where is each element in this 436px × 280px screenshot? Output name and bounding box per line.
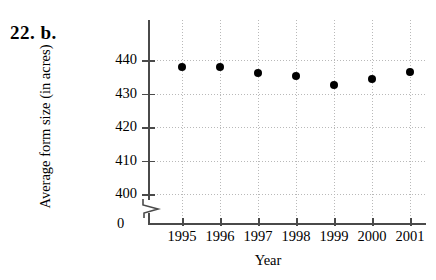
gridline-horizontal [148, 161, 426, 162]
y-axis-tick-label: 410 [115, 152, 137, 169]
x-axis-title-wrap: Year [0, 252, 436, 269]
x-axis-tick [372, 218, 374, 226]
y-axis-line [148, 20, 150, 200]
data-point [178, 63, 186, 71]
x-axis-tick [334, 218, 336, 226]
y-axis-title: Average form size (in acres) [37, 22, 54, 232]
axis-break-icon [141, 198, 163, 218]
x-axis-tick [296, 218, 298, 226]
gridline-vertical [372, 20, 373, 224]
y-axis-tick-label: 430 [115, 85, 137, 102]
y-axis-tick: 410 [142, 161, 155, 163]
y-axis-zero-label: 0 [117, 215, 124, 232]
y-axis-tick-label: 440 [115, 51, 137, 68]
gridline-horizontal [148, 127, 426, 128]
x-axis-line [148, 223, 426, 225]
x-axis-tick-label: 1995 [168, 228, 197, 245]
gridline-horizontal [148, 60, 426, 61]
figure-container: 22. b. Average form size (in acres) 4004… [0, 0, 436, 280]
gridline-vertical [296, 20, 297, 224]
x-axis-tick-label: 1996 [206, 228, 235, 245]
y-axis-tick: 420 [142, 127, 155, 129]
x-axis-tick-label: 2001 [396, 228, 425, 245]
x-axis-tick-label: 2000 [358, 228, 387, 245]
gridlines [148, 20, 426, 224]
y-axis-tick: 440 [142, 60, 155, 62]
gridline-vertical [182, 20, 183, 224]
y-axis-tick: 430 [142, 94, 155, 96]
x-axis-tick [410, 218, 412, 226]
y-axis-tick-label: 420 [115, 118, 137, 135]
x-axis-tick-label: 1999 [320, 228, 349, 245]
gridline-horizontal [148, 94, 426, 95]
x-axis-tick [220, 218, 222, 226]
gridline-vertical [258, 20, 259, 224]
gridline-horizontal [148, 194, 426, 195]
y-axis-tick: 400 [142, 194, 155, 196]
x-axis-tick [182, 218, 184, 226]
y-axis-tick-label: 400 [115, 185, 137, 202]
x-axis-tick-label: 1998 [282, 228, 311, 245]
x-axis-tick-label: 1997 [244, 228, 273, 245]
x-axis-tick [258, 218, 260, 226]
gridline-vertical [220, 20, 221, 224]
plot-area [148, 20, 426, 224]
x-axis-title: Year [255, 252, 282, 268]
data-point [216, 63, 224, 71]
gridline-vertical [334, 20, 335, 224]
gridline-vertical [410, 20, 411, 224]
